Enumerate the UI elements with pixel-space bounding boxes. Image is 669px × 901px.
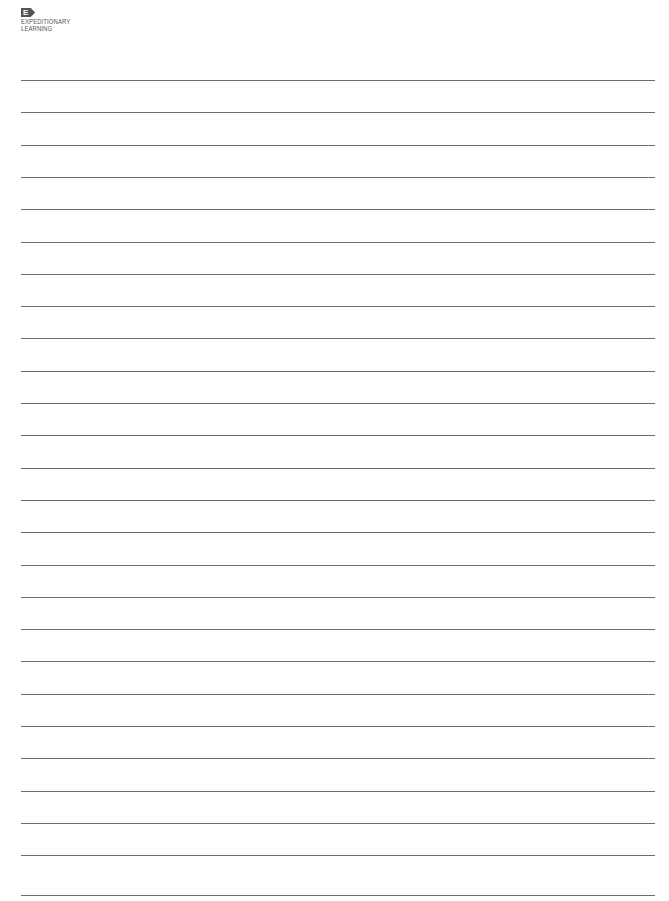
writing-line xyxy=(21,274,655,275)
writing-line xyxy=(21,661,655,662)
writing-line xyxy=(21,145,655,146)
logo-mark-letter: E xyxy=(23,8,28,17)
writing-line xyxy=(21,597,655,598)
writing-line xyxy=(21,500,655,501)
writing-line xyxy=(21,791,655,792)
writing-line xyxy=(21,371,655,372)
writing-line xyxy=(21,435,655,436)
writing-line xyxy=(21,338,655,339)
writing-line xyxy=(21,532,655,533)
expeditionary-learning-logo: E EXPEDITIONARY LEARNING xyxy=(21,8,79,32)
logo-text-line2: LEARNING xyxy=(21,25,70,32)
writing-line xyxy=(21,403,655,404)
logo-mark-icon: E xyxy=(21,8,35,17)
writing-line xyxy=(21,855,655,856)
writing-line xyxy=(21,895,655,896)
writing-line xyxy=(21,694,655,695)
writing-line xyxy=(21,758,655,759)
writing-line xyxy=(21,112,655,113)
writing-line xyxy=(21,468,655,469)
logo-wordmark: EXPEDITIONARY LEARNING xyxy=(21,18,70,32)
writing-line xyxy=(21,80,655,81)
writing-line xyxy=(21,242,655,243)
writing-line xyxy=(21,306,655,307)
writing-line xyxy=(21,823,655,824)
writing-line xyxy=(21,177,655,178)
writing-line xyxy=(21,565,655,566)
logo-text-line1: EXPEDITIONARY xyxy=(21,18,70,25)
writing-line xyxy=(21,629,655,630)
writing-line xyxy=(21,209,655,210)
writing-line xyxy=(21,726,655,727)
